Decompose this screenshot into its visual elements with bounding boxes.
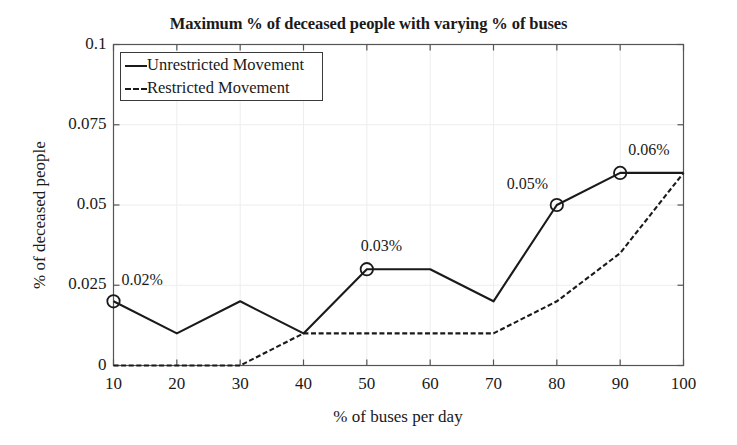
x-tick-label: 60: [405, 374, 455, 394]
x-tick-label: 30: [215, 374, 265, 394]
y-tick-label: 0.05: [77, 194, 107, 214]
legend-item-restricted-movement: Restricted Movement: [125, 77, 290, 100]
legend-item-unrestricted-movement: Unrestricted Movement: [125, 54, 304, 77]
y-tick-label: 0: [98, 355, 107, 375]
data-point-annotation: 0.06%: [628, 141, 669, 159]
data-series-group: [114, 173, 684, 366]
x-tick-label: 10: [89, 374, 139, 394]
y-tick-label: 0.025: [68, 274, 106, 294]
data-point-annotation: 0.05%: [507, 175, 548, 193]
y-tick-label: 0.075: [68, 114, 106, 134]
legend: Unrestricted Movement Restricted Movemen…: [120, 52, 323, 101]
x-tick-label: 70: [469, 374, 519, 394]
x-tick-label: 20: [152, 374, 202, 394]
x-tick-label: 40: [279, 374, 329, 394]
dashed-line-icon: [125, 83, 147, 95]
solid-line-icon: [125, 60, 147, 72]
data-point-annotation: 0.02%: [122, 271, 163, 289]
chart-figure: Maximum % of deceased people with varyin…: [0, 0, 737, 445]
x-tick-label: 50: [342, 374, 392, 394]
x-tick-label: 90: [595, 374, 645, 394]
y-tick-label: 0.1: [85, 34, 106, 54]
legend-item-label: Restricted Movement: [147, 80, 290, 97]
legend-item-label: Unrestricted Movement: [147, 57, 304, 74]
x-tick-label: 80: [532, 374, 582, 394]
x-tick-label: 100: [659, 374, 709, 394]
data-point-annotation: 0.03%: [361, 237, 402, 255]
